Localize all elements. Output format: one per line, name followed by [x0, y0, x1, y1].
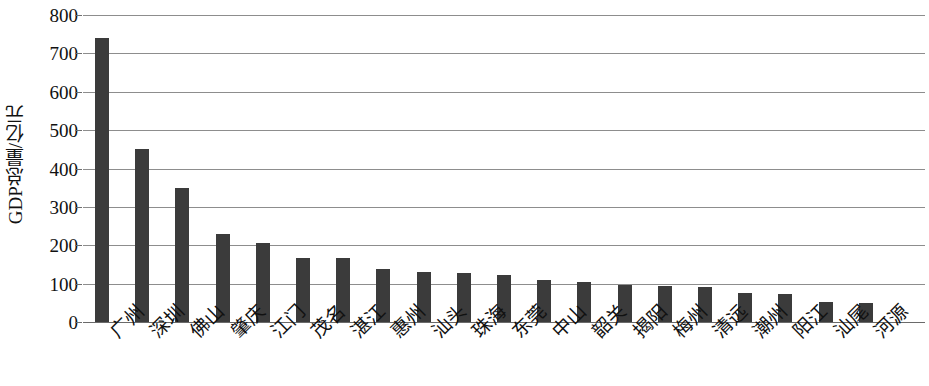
y-axis-tick-mark: [75, 245, 82, 246]
y-axis-tick-label: 700: [22, 44, 78, 63]
gridline: [83, 130, 925, 131]
gridline: [83, 92, 925, 93]
gridline: [83, 15, 925, 16]
y-axis-tick-labels: 0100200300400500600700800: [22, 0, 78, 340]
y-axis-tick-mark: [75, 207, 82, 208]
y-axis-tick-mark: [75, 169, 82, 170]
bar: [95, 38, 109, 322]
y-axis-tick-label: 600: [22, 82, 78, 101]
gridline: [83, 245, 925, 246]
y-axis-tick-label: 300: [22, 197, 78, 216]
y-axis-tick-mark: [75, 322, 82, 323]
x-axis-tick-labels: 广州深圳佛山肇庆江门茂名湛江惠州汕头珠海东莞中山韶关揭阳梅州清远潮州阳江汕尾河源: [83, 322, 929, 386]
plot-area: [83, 15, 925, 322]
y-axis-tick-mark: [75, 92, 82, 93]
y-axis-tick-mark: [75, 53, 82, 54]
y-axis-tick-label: 800: [22, 6, 78, 25]
y-axis-tick-mark: [75, 130, 82, 131]
gridline: [83, 169, 925, 170]
y-axis-tick-label: 400: [22, 159, 78, 178]
gridline: [83, 207, 925, 208]
y-axis-tick-label: 0: [22, 313, 78, 332]
y-axis-tick-label: 200: [22, 236, 78, 255]
y-axis-tick-mark: [75, 15, 82, 16]
y-axis-tick-label: 500: [22, 121, 78, 140]
y-axis-tick-mark: [75, 284, 82, 285]
gdp-bar-chart: GDP总量/亿元 0100200300400500600700800 广州深圳佛…: [0, 0, 929, 386]
gridline: [83, 53, 925, 54]
y-axis-tick-label: 100: [22, 274, 78, 293]
bar: [135, 149, 149, 322]
bar: [175, 188, 189, 322]
